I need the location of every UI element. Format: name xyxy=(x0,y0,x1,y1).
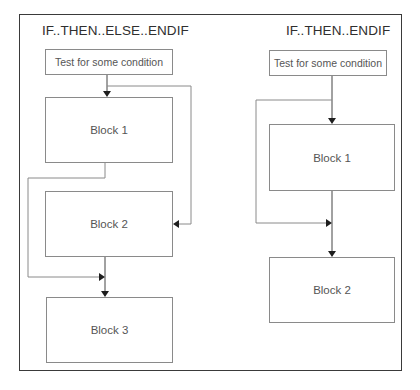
left-block-2: Block 2 xyxy=(45,191,173,257)
left-panel-title: IF..THEN..ELSE..ENDIF xyxy=(42,23,189,38)
right-block-1: Block 1 xyxy=(269,124,395,191)
left-block-1: Block 1 xyxy=(45,97,173,163)
left-block-3: Block 3 xyxy=(46,297,173,363)
right-block-2: Block 2 xyxy=(269,257,395,323)
flowchart-canvas: IF..THEN..ELSE..ENDIF Test for some cond… xyxy=(0,0,420,390)
right-panel-title: IF..THEN..ENDIF xyxy=(286,23,390,38)
right-test-condition-box: Test for some condition xyxy=(269,50,387,76)
left-test-condition-box: Test for some condition xyxy=(45,49,173,75)
